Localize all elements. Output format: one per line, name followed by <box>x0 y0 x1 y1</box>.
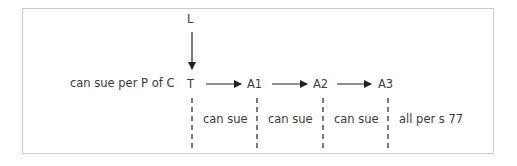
node-a3: A3 <box>378 77 393 91</box>
node-a2: A2 <box>313 77 328 91</box>
segment-label-2: can sue <box>268 112 313 126</box>
segment-label-3: can sue <box>334 112 379 126</box>
segment-label-4: all per s 77 <box>399 112 463 126</box>
node-l: L <box>187 12 193 26</box>
side-note: can sue per P of C <box>70 76 174 90</box>
node-a1: A1 <box>247 77 262 91</box>
node-t: T <box>187 77 194 91</box>
segment-label-1: can sue <box>203 112 248 126</box>
